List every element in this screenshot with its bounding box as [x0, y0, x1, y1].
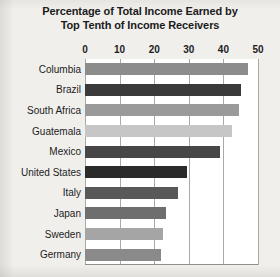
x-axis-tick-labels: 01020304050 — [0, 44, 280, 58]
bar — [85, 166, 187, 178]
bar-row: Guatemala — [85, 121, 258, 142]
category-label: Brazil — [56, 83, 81, 96]
x-axis-tick-label: 0 — [82, 44, 88, 55]
bar-row: Japan — [85, 203, 258, 224]
category-label: Japan — [54, 207, 81, 220]
x-axis-tick-label: 50 — [252, 44, 263, 55]
chart-title-line-1: Percentage of Total Income Earned by — [42, 5, 237, 17]
plot-wrapper: 01020304050 ColumbiaBrazilSouth AfricaGu… — [0, 44, 280, 269]
x-axis-line — [85, 264, 258, 265]
bar — [85, 146, 220, 158]
bar-row: United States — [85, 162, 258, 183]
bars-layer: ColumbiaBrazilSouth AfricaGuatemalaMexic… — [85, 59, 258, 265]
x-axis-tick-label: 20 — [149, 44, 160, 55]
chart-figure: Percentage of Total Income Earned by Top… — [0, 0, 280, 277]
gridline — [258, 59, 259, 265]
bar — [85, 228, 163, 240]
x-axis-tick-label: 40 — [218, 44, 229, 55]
category-label: South Africa — [27, 104, 81, 117]
category-label: Sweden — [45, 228, 81, 241]
chart-title-line-2: Top Tenth of Income Receivers — [14, 19, 266, 33]
bar — [85, 187, 178, 199]
chart-title: Percentage of Total Income Earned by Top… — [14, 5, 266, 32]
category-label: Germany — [40, 248, 81, 261]
bar — [85, 207, 166, 219]
category-label: Italy — [63, 186, 81, 199]
bar-row: Brazil — [85, 80, 258, 101]
category-label: Columbia — [39, 63, 81, 76]
bar — [85, 125, 232, 137]
bar-row: Italy — [85, 183, 258, 204]
bar-row: South Africa — [85, 100, 258, 121]
bar — [85, 104, 239, 116]
category-label: United States — [21, 166, 81, 179]
bar — [85, 63, 248, 75]
x-axis-tick-label: 30 — [183, 44, 194, 55]
bar — [85, 249, 161, 261]
bar-row: Columbia — [85, 59, 258, 80]
category-label: Mexico — [49, 145, 81, 158]
plot-area: ColumbiaBrazilSouth AfricaGuatemalaMexic… — [85, 59, 258, 265]
bar — [85, 84, 241, 96]
bar-row: Sweden — [85, 224, 258, 245]
category-label: Guatemala — [32, 125, 81, 138]
bar-row: Mexico — [85, 141, 258, 162]
x-axis-tick-label: 10 — [114, 44, 125, 55]
bar-row: Germany — [85, 244, 258, 265]
